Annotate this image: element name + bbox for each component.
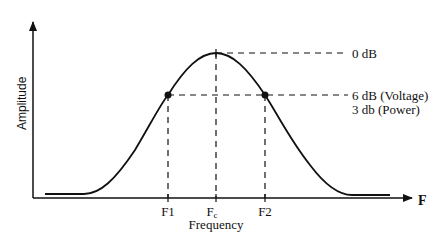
response-curve xyxy=(45,53,390,195)
y-axis-label: Amplitude xyxy=(15,76,29,130)
peak-annotation: 0 dB xyxy=(352,46,377,61)
cutoff-annotation-power: 3 db (Power) xyxy=(352,102,420,117)
cutoff-annotation-voltage: 6 dB (Voltage) xyxy=(352,88,428,103)
tick-label-f2: F2 xyxy=(258,204,272,219)
tick-label-f1: F1 xyxy=(161,204,175,219)
tick-label-fc: Fc xyxy=(206,204,217,220)
x-axis-end-label: F xyxy=(418,193,427,208)
bandpass-diagram: 0 dB 6 dB (Voltage) 3 db (Power) Amplitu… xyxy=(0,0,442,247)
f2-cutoff-point xyxy=(262,92,269,99)
f1-cutoff-point xyxy=(165,92,172,99)
